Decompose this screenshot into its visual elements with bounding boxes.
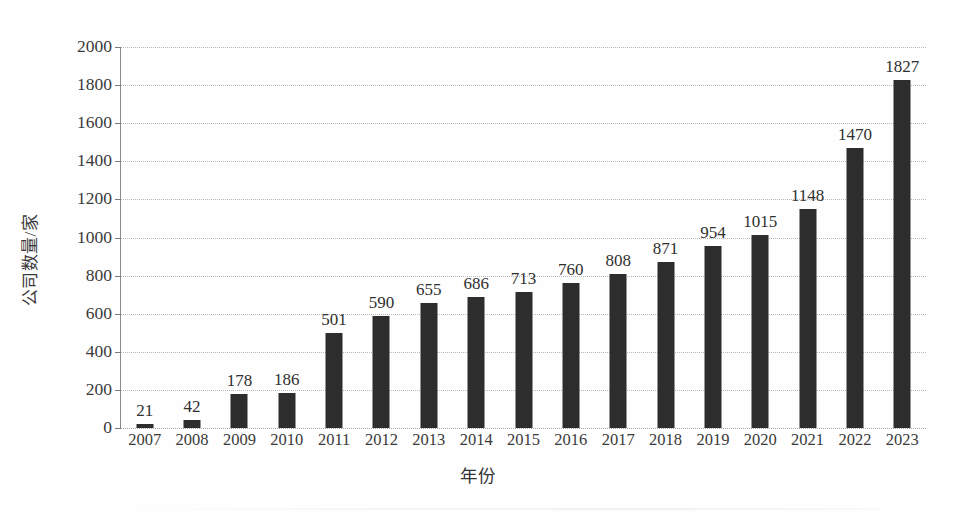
- y-axis-tick-mark: [115, 352, 121, 353]
- bar-value-label: 42: [184, 398, 201, 415]
- x-axis-tick-label: 2022: [838, 432, 871, 449]
- y-axis-tick-mark: [115, 161, 121, 162]
- bar: [610, 274, 627, 428]
- x-axis-tick-label: 2008: [176, 432, 209, 449]
- bar-group: 1782009: [217, 47, 261, 428]
- bar-value-label: 760: [558, 261, 584, 278]
- bar-value-label: 1827: [885, 58, 919, 75]
- y-axis-tick-label: 400: [86, 343, 112, 361]
- x-axis-tick-label: 2012: [365, 432, 398, 449]
- y-axis-tick-label: 200: [86, 381, 112, 399]
- bar-value-label: 590: [369, 294, 395, 311]
- bar-chart-figure: 公司数量/家 020040060080010001200140016001800…: [0, 0, 956, 517]
- bar-value-label: 1470: [838, 126, 872, 143]
- bar-group: 9542019: [691, 47, 735, 428]
- bar: [278, 393, 295, 428]
- x-axis-tick-label: 2009: [223, 432, 256, 449]
- bar: [373, 316, 390, 428]
- y-axis-tick-label: 1400: [77, 153, 112, 171]
- bar: [326, 333, 343, 428]
- bar-value-label: 686: [463, 275, 489, 292]
- x-axis-tick-label: 2007: [128, 432, 161, 449]
- y-axis-tick-label: 1600: [77, 114, 112, 132]
- bar-value-label: 808: [605, 252, 631, 269]
- bar: [752, 235, 769, 428]
- bar: [846, 148, 863, 428]
- bar-group: 5902012: [359, 47, 403, 428]
- y-axis-tick-label: 1200: [77, 191, 112, 209]
- y-axis-tick-mark: [115, 199, 121, 200]
- y-axis-tick-mark: [115, 276, 121, 277]
- bar-value-label: 186: [274, 371, 300, 388]
- bar: [515, 292, 532, 428]
- bar-value-label: 178: [227, 372, 253, 389]
- y-axis-tick-label: 800: [86, 267, 112, 285]
- x-axis-tick-label: 2013: [412, 432, 445, 449]
- bar-group: 8082017: [596, 47, 640, 428]
- y-axis-tick-mark: [115, 390, 121, 391]
- y-axis-tick-label: 0: [103, 419, 112, 437]
- x-axis-tick-label: 2021: [791, 432, 824, 449]
- bar-group: 14702022: [833, 47, 877, 428]
- bar-value-label: 713: [511, 270, 537, 287]
- bar-group: 422008: [170, 47, 214, 428]
- bar-group: 18272023: [880, 47, 924, 428]
- y-axis-tick-label: 2000: [77, 38, 112, 56]
- bar-value-label: 1015: [743, 213, 777, 230]
- bar: [231, 394, 248, 428]
- x-axis-tick-label: 2010: [270, 432, 303, 449]
- bar-value-label: 501: [321, 311, 347, 328]
- gridline: [121, 428, 926, 429]
- bar: [657, 262, 674, 428]
- bar: [799, 209, 816, 428]
- x-axis-tick-label: 2015: [507, 432, 540, 449]
- bar-value-label: 954: [700, 224, 726, 241]
- bar-group: 6862014: [454, 47, 498, 428]
- y-axis-tick-mark: [115, 238, 121, 239]
- bar: [704, 246, 721, 428]
- bar-group: 6552013: [407, 47, 451, 428]
- bar: [420, 303, 437, 428]
- scan-artifact: [120, 508, 880, 510]
- bar-value-label: 871: [653, 240, 679, 257]
- y-axis-title: 公司数量/家: [16, 150, 42, 370]
- x-axis-tick-label: 2011: [318, 432, 350, 449]
- bar: [184, 420, 201, 428]
- y-axis-tick-label: 1800: [77, 76, 112, 94]
- bar-group: 11482021: [786, 47, 830, 428]
- bar-group: 7602016: [549, 47, 593, 428]
- bar-group: 1862010: [265, 47, 309, 428]
- plot-area: 0200400600800100012001400160018002000212…: [120, 47, 926, 428]
- bar-group: 212007: [123, 47, 167, 428]
- y-axis-tick-mark: [115, 123, 121, 124]
- y-axis-tick-mark: [115, 314, 121, 315]
- y-axis-tick-mark: [115, 428, 121, 429]
- bar-group: 7132015: [502, 47, 546, 428]
- x-axis-tick-label: 2023: [886, 432, 919, 449]
- bar-value-label: 1148: [791, 187, 824, 204]
- x-axis-tick-label: 2019: [696, 432, 729, 449]
- bar: [562, 283, 579, 428]
- x-axis-title: 年份: [0, 462, 956, 487]
- y-axis-tick-label: 600: [86, 305, 112, 323]
- x-axis-tick-label: 2014: [460, 432, 493, 449]
- bar-value-label: 655: [416, 281, 442, 298]
- bar: [136, 424, 153, 428]
- bar-group: 5012011: [312, 47, 356, 428]
- bar: [468, 297, 485, 428]
- bar-group: 10152020: [738, 47, 782, 428]
- bar: [894, 80, 911, 428]
- y-axis-tick-mark: [115, 47, 121, 48]
- y-axis-tick-label: 1000: [77, 229, 112, 247]
- bar-group: 8712018: [644, 47, 688, 428]
- x-axis-tick-label: 2016: [554, 432, 587, 449]
- bar-value-label: 21: [136, 402, 153, 419]
- x-axis-tick-label: 2020: [744, 432, 777, 449]
- x-axis-tick-label: 2018: [649, 432, 682, 449]
- y-axis-tick-mark: [115, 85, 121, 86]
- x-axis-tick-label: 2017: [602, 432, 635, 449]
